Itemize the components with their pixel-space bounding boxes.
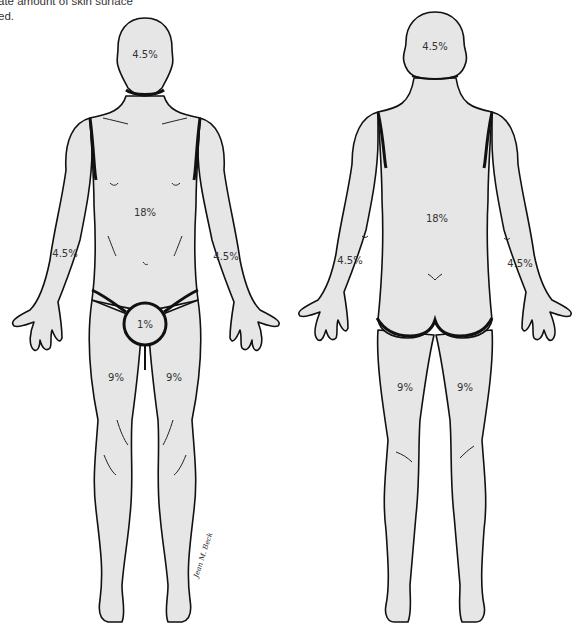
front-left-leg-label: 9%	[166, 372, 182, 383]
back-left-leg-label: 9%	[397, 382, 413, 393]
back-left-arm	[299, 112, 378, 340]
back-right-leg-label: 9%	[457, 382, 473, 393]
front-right-arm	[13, 118, 92, 350]
back-right-arm	[492, 112, 571, 340]
back-trunk-label: 18%	[426, 213, 448, 224]
front-trunk-label: 18%	[134, 207, 156, 218]
back-right-leg	[436, 330, 492, 622]
back-head-label: 4.5%	[422, 41, 447, 52]
back-right-arm-label: 4.5%	[507, 258, 532, 269]
front-right-arm-label: 4.5%	[52, 248, 77, 259]
rule-of-nines-diagram: 4.5% 18% 4.5% 4.5% 1% 9% 9% Jean M. Beck…	[0, 0, 576, 626]
artist-signature: Jean M. Beck	[192, 532, 215, 581]
front-left-arm	[198, 118, 279, 350]
front-head-label: 4.5%	[132, 49, 157, 60]
front-right-leg-label: 9%	[108, 372, 124, 383]
front-genitalia-label: 1%	[137, 319, 153, 330]
back-left-leg	[378, 330, 434, 622]
back-left-arm-label: 4.5%	[337, 255, 362, 266]
back-trunk	[378, 78, 492, 338]
front-right-leg	[89, 300, 142, 622]
front-trunk	[90, 96, 200, 312]
front-left-arm-label: 4.5%	[213, 251, 238, 262]
